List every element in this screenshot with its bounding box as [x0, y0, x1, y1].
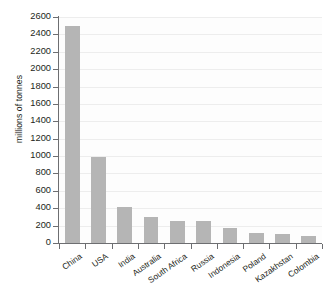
bar	[91, 157, 106, 243]
y-axis-tick-label: 1800	[0, 81, 51, 91]
gridline	[59, 69, 322, 70]
bar	[170, 221, 185, 243]
y-axis-tick	[53, 121, 59, 122]
x-axis-tick	[296, 244, 297, 249]
y-axis-tick-label: 1000	[0, 150, 51, 160]
bar	[117, 207, 132, 243]
plot-area	[59, 17, 322, 243]
y-axis-tick	[53, 52, 59, 53]
y-axis-tick-label: 800	[0, 167, 51, 177]
bar	[196, 221, 211, 243]
y-axis-line	[58, 16, 59, 244]
x-axis-tick	[322, 244, 323, 249]
bar	[249, 233, 264, 243]
y-axis-tick-label: 0	[0, 237, 51, 247]
y-axis-tick-label: 1600	[0, 98, 51, 108]
bar	[223, 228, 238, 243]
x-axis-tick	[217, 244, 218, 249]
gridline	[59, 34, 322, 35]
bar	[301, 236, 316, 243]
y-axis-tick	[53, 87, 59, 88]
x-axis-tick	[85, 244, 86, 249]
bar	[144, 217, 159, 243]
x-axis-tick	[138, 244, 139, 249]
bar	[275, 234, 290, 243]
gridline	[59, 104, 322, 105]
x-axis-tick	[112, 244, 113, 249]
x-axis-tick	[269, 244, 270, 249]
x-axis-tick	[191, 244, 192, 249]
y-axis-tick	[53, 17, 59, 18]
y-axis-tick-label: 2200	[0, 46, 51, 56]
gridline	[59, 52, 322, 53]
y-axis-tick	[53, 208, 59, 209]
y-axis-tick-label: 2600	[0, 11, 51, 21]
y-axis-tick	[53, 226, 59, 227]
bar-chart: millions of tonnes 020040060080010001200…	[0, 0, 336, 304]
gridline	[59, 17, 322, 18]
y-axis-tick-label: 2000	[0, 63, 51, 73]
gridline	[59, 139, 322, 140]
y-axis-tick-label: 1200	[0, 133, 51, 143]
gridline	[59, 121, 322, 122]
y-axis-tick	[53, 104, 59, 105]
x-axis-tick	[59, 244, 60, 249]
y-axis-tick-label: 1400	[0, 115, 51, 125]
y-axis-tick	[53, 191, 59, 192]
y-axis-tick	[53, 156, 59, 157]
y-axis-tick	[53, 173, 59, 174]
y-axis-tick	[53, 69, 59, 70]
y-axis-tick-label: 200	[0, 220, 51, 230]
x-axis-tick	[243, 244, 244, 249]
y-axis-tick	[53, 139, 59, 140]
y-axis-tick-label: 400	[0, 202, 51, 212]
y-axis-tick	[53, 34, 59, 35]
bar	[65, 26, 80, 243]
y-axis-tick-label: 600	[0, 185, 51, 195]
gridline	[59, 87, 322, 88]
x-axis-tick	[164, 244, 165, 249]
y-axis-tick-label: 2400	[0, 28, 51, 38]
